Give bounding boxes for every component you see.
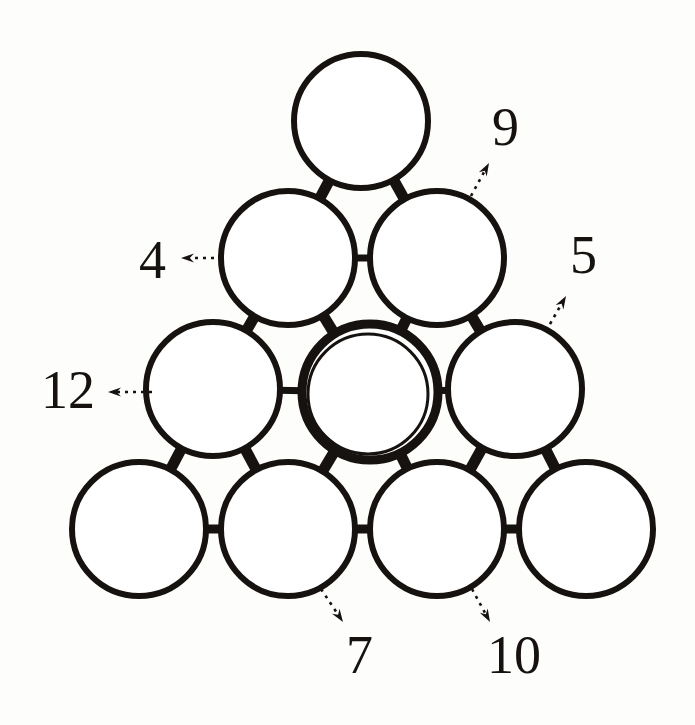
label-5-arrow-head [556,296,566,310]
row4-circle-4[interactable] [519,462,653,596]
label-4-arrow-head [181,254,194,263]
circles-layer [72,54,653,596]
row2-right-circle-outline [370,191,504,325]
row2-left-circle[interactable] [221,191,355,325]
label-9: 9 [492,100,519,154]
diagram-canvas: 94512710 [0,0,695,725]
row3-left-circle-outline [146,322,280,456]
top-circle-outline [294,54,428,188]
row4-circle-3-outline [370,462,504,596]
label-10: 10 [487,628,541,682]
label-10-arrow-shaft [472,589,487,616]
label-7-arrow-head [332,609,343,622]
row3-right-circle[interactable] [448,322,582,456]
label-5: 5 [570,228,597,282]
row2-right-circle[interactable] [370,191,504,325]
row4-circle-1[interactable] [72,462,206,596]
top-circle[interactable] [294,54,428,188]
row2-left-circle-outline [221,191,355,325]
row3-left-circle[interactable] [146,322,280,456]
row4-circle-2-outline [221,462,355,596]
label-4: 4 [139,233,166,287]
row4-circle-4-outline [519,462,653,596]
row4-circle-1-outline [72,462,206,596]
circle-packing-figure [0,0,695,725]
row4-circle-3[interactable] [370,462,504,596]
row3-center-circle-outline [302,324,438,460]
label-7: 7 [346,628,373,682]
label-12: 12 [41,363,95,417]
row4-circle-2[interactable] [221,462,355,596]
row3-right-circle-outline [448,322,582,456]
row3-center-circle[interactable] [302,324,438,460]
label-7-arrow-shaft [321,589,339,616]
label-5-arrow-shaft [546,302,562,331]
label-9-arrow-shaft [471,169,486,196]
